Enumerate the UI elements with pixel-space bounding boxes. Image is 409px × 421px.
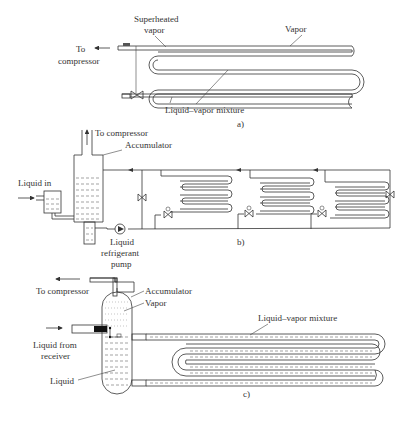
evaporator-coil-1 xyxy=(155,170,232,229)
coil-pass-2 xyxy=(149,56,360,90)
coil-1-valve-icon xyxy=(164,211,172,218)
mixture-label-a: Liquid–vapor mixture xyxy=(165,105,244,115)
to-compressor-label-a1: To xyxy=(76,44,86,54)
sensing-bulb-icon xyxy=(123,43,130,46)
vapor-space xyxy=(105,302,129,326)
evaporator-coil-c xyxy=(132,334,385,386)
to-compressor-label-a2: compressor xyxy=(58,56,100,66)
supply-header xyxy=(128,228,390,229)
accumulator-label-b: Accumulator xyxy=(125,140,172,150)
vapor-label-a: Vapor xyxy=(285,24,307,34)
from-receiver-label-1: Liquid from xyxy=(33,340,77,350)
accumulator-vessel xyxy=(74,155,103,222)
evaporator-coil-3 xyxy=(311,170,389,229)
caption-a: a) xyxy=(237,119,244,129)
mixture-label-c: Liquid–vapor mixture xyxy=(258,313,337,323)
pump-label-3: pump xyxy=(111,259,132,269)
caption-b: b) xyxy=(237,237,245,247)
to-compressor-label-b: To compressor xyxy=(95,128,148,138)
expansion-valve-icon xyxy=(131,91,143,99)
figure-c-flooded-evaporator: To compressor Liquid from receiver Liqui… xyxy=(33,278,385,399)
liquid-label-c: Liquid xyxy=(50,376,74,386)
liquid-space xyxy=(105,337,129,385)
refrigerant-pump-icon xyxy=(115,224,125,234)
refrigeration-evaporator-diagram: To compressor Superheated vapor Vapor Li… xyxy=(0,0,409,421)
figure-a-dry-expansion-evaporator: To compressor Superheated vapor Vapor Li… xyxy=(58,14,364,129)
figure-b-pump-recirculation: To compressor Accumulator Liquid in xyxy=(18,128,394,269)
to-compressor-label-c: To compressor xyxy=(36,286,89,296)
caption-c: c) xyxy=(243,389,250,399)
coil-2-valve-icon xyxy=(245,210,253,217)
accumulator-sump xyxy=(84,222,95,244)
from-receiver-label-2: receiver xyxy=(41,351,70,361)
float-chamber xyxy=(44,191,61,213)
accumulator-liquid xyxy=(76,178,101,219)
vapor-label-c: Vapor xyxy=(145,298,167,308)
pump-label-1: Liquid xyxy=(110,237,134,247)
float-valve-icon xyxy=(94,326,107,332)
liquid-in-label: Liquid in xyxy=(18,178,52,188)
evaporator-coil-2 xyxy=(238,170,314,229)
coil-pass-1 xyxy=(118,46,354,56)
accumulator-label-c: Accumulator xyxy=(145,286,192,296)
superheated-label-1: Superheated xyxy=(134,14,179,24)
coil-3-valve-icon xyxy=(318,210,326,217)
pump-label-2: refrigerant xyxy=(101,248,139,258)
superheated-label-2: vapor xyxy=(144,25,165,35)
